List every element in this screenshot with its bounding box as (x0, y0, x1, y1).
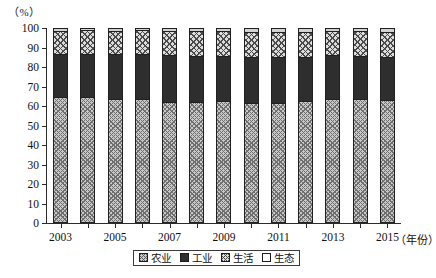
bar-segment-工业[interactable] (325, 55, 340, 99)
bar-column[interactable] (53, 28, 68, 223)
bar-segment-工业[interactable] (271, 57, 286, 104)
bar-segment-生活[interactable] (380, 32, 395, 57)
y-axis-tick (42, 223, 47, 224)
bar-segment-工业[interactable] (298, 57, 313, 101)
legend-label: 工业 (192, 250, 212, 265)
x-axis-tick-label: 2005 (104, 231, 127, 243)
legend-item-生活[interactable]: 生活 (221, 250, 253, 265)
y-axis-unit-label: （%） (8, 3, 41, 19)
x-axis-tick-label: 2003 (49, 231, 72, 243)
x-axis-tick-label: 2009 (213, 231, 236, 243)
x-axis-tick (170, 223, 171, 228)
x-axis-tick (115, 223, 116, 228)
x-axis-tick (251, 223, 252, 228)
bar-segment-生活[interactable] (353, 31, 368, 56)
bar-segment-农业[interactable] (53, 97, 68, 223)
bar-segment-工业[interactable] (189, 56, 204, 102)
bar-column[interactable] (80, 28, 95, 223)
bars-container (47, 28, 401, 223)
x-axis-tick-label: 2011 (267, 231, 290, 243)
bar-segment-生活[interactable] (80, 30, 95, 54)
bar-column[interactable] (353, 28, 368, 223)
x-axis-tick-label: 2007 (158, 231, 181, 243)
bar-segment-生活[interactable] (216, 31, 231, 56)
x-axis-tick (278, 223, 279, 228)
bar-segment-农业[interactable] (162, 102, 177, 223)
bar-segment-农业[interactable] (353, 99, 368, 223)
y-axis-tick-label: 70 (28, 81, 40, 93)
y-axis-tick-label: 20 (28, 178, 40, 190)
bar-segment-生活[interactable] (53, 31, 68, 55)
bar-segment-农业[interactable] (325, 99, 340, 223)
x-axis-tick (360, 223, 361, 228)
y-axis-tick-label: 30 (28, 159, 40, 171)
bar-column[interactable] (271, 28, 286, 223)
legend-label: 生活 (233, 250, 253, 265)
x-axis-tick (306, 223, 307, 228)
legend-swatch-icon (180, 253, 189, 262)
legend-item-生态[interactable]: 生态 (262, 250, 294, 265)
bar-segment-生活[interactable] (162, 31, 177, 55)
bar-segment-生活[interactable] (271, 32, 286, 57)
y-axis-tick-label: 0 (33, 217, 39, 229)
legend-label: 生态 (274, 250, 294, 265)
bar-segment-工业[interactable] (216, 56, 231, 101)
bar-column[interactable] (216, 28, 231, 223)
bar-segment-工业[interactable] (80, 54, 95, 97)
bar-segment-生活[interactable] (244, 32, 259, 57)
y-axis-tick-label: 10 (28, 198, 40, 210)
bar-segment-农业[interactable] (108, 99, 123, 223)
legend-swatch-icon (262, 253, 271, 262)
bar-column[interactable] (162, 28, 177, 223)
legend-swatch-icon (221, 253, 230, 262)
bar-segment-农业[interactable] (244, 103, 259, 223)
legend-item-工业[interactable]: 工业 (180, 250, 212, 265)
bar-column[interactable] (244, 28, 259, 223)
legend-item-农业[interactable]: 农业 (139, 250, 171, 265)
bar-segment-生活[interactable] (325, 31, 340, 55)
bar-segment-工业[interactable] (108, 54, 123, 98)
bar-segment-农业[interactable] (135, 99, 150, 223)
bar-segment-工业[interactable] (135, 54, 150, 99)
x-axis-tick (197, 223, 198, 228)
bar-segment-农业[interactable] (271, 103, 286, 223)
y-axis-tick-label: 50 (28, 120, 40, 132)
bar-column[interactable] (189, 28, 204, 223)
bar-segment-农业[interactable] (80, 97, 95, 223)
y-axis-tick-label: 40 (28, 139, 40, 151)
legend-label: 农业 (151, 250, 171, 265)
bar-column[interactable] (380, 28, 395, 223)
y-axis-tick-label: 80 (28, 61, 40, 73)
bar-column[interactable] (298, 28, 313, 223)
bar-column[interactable] (108, 28, 123, 223)
bar-segment-工业[interactable] (162, 55, 177, 102)
plot-area: 0102030405060708090100 20032005200720092… (46, 28, 401, 224)
bar-column[interactable] (135, 28, 150, 223)
y-axis-tick-label: 60 (28, 100, 40, 112)
bar-segment-工业[interactable] (380, 57, 395, 100)
legend-swatch-icon (139, 253, 148, 262)
bar-segment-农业[interactable] (189, 102, 204, 223)
bar-segment-生活[interactable] (108, 31, 123, 55)
bar-segment-生活[interactable] (189, 31, 204, 56)
x-axis-tick-label: 2013 (321, 231, 344, 243)
bar-segment-生活[interactable] (135, 30, 150, 54)
x-axis-tick (333, 223, 334, 228)
x-axis-tick (387, 223, 388, 228)
bar-segment-农业[interactable] (298, 101, 313, 223)
y-axis-tick-label: 90 (28, 42, 40, 54)
bar-segment-农业[interactable] (380, 100, 395, 223)
x-axis-tick (88, 223, 89, 228)
x-axis-tick (61, 223, 62, 228)
bar-segment-工业[interactable] (53, 54, 68, 97)
bar-segment-工业[interactable] (353, 56, 368, 99)
bar-column[interactable] (325, 28, 340, 223)
bar-segment-农业[interactable] (216, 101, 231, 223)
x-axis-tick (224, 223, 225, 228)
bar-segment-生活[interactable] (298, 32, 313, 57)
bar-segment-工业[interactable] (244, 57, 259, 104)
y-axis-tick-label: 100 (22, 22, 39, 34)
x-axis-unit-label: （年份） (395, 231, 436, 247)
chart-legend: 农业工业生活生态 (133, 250, 300, 266)
